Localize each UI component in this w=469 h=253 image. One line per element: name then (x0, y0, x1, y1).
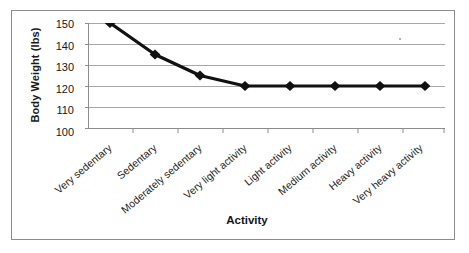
y-tick-label-130: 130 (44, 62, 74, 73)
x-tick-text-0: Very sedentary (53, 142, 113, 195)
gridlines (88, 24, 445, 108)
plot-area (77, 23, 445, 141)
x-tick-label-6: Heavy activity (262, 142, 384, 246)
x-tick-label-4: Light activity (172, 142, 294, 246)
y-tick-label-140: 140 (44, 41, 74, 52)
x-tick-text-3: Very light activity (182, 142, 249, 200)
y-tick-label-150: 150 (44, 19, 74, 30)
chart-canvas (77, 23, 445, 141)
chart-figure: Body Weight (lbs) 150 140 130 120 110 10… (11, 10, 455, 240)
x-tick-text-2: Moderately sedentary (119, 142, 203, 215)
x-tick-label-3: Very light activity (127, 142, 249, 246)
x-tick-label-7: Very heavy activity (303, 142, 425, 246)
x-tick-label-5: Medium activity (217, 142, 339, 246)
data-point-7 (420, 81, 431, 91)
y-tick-label-110: 110 (44, 105, 74, 116)
y-tick-label-120: 120 (44, 84, 74, 95)
scan-artifact-speck (399, 38, 401, 40)
y-tick-label-100: 100 (44, 127, 74, 138)
x-tick-text-4: Light activity (242, 142, 293, 187)
data-point-4 (285, 81, 296, 91)
data-point-5 (330, 81, 341, 91)
data-point-3 (240, 81, 251, 91)
x-tick-label-0: Very sedentary (0, 142, 113, 246)
y-axis-ticks (85, 24, 89, 129)
x-tick-text-1: Sedentary (115, 142, 158, 181)
y-axis-tick-labels: 150 140 130 120 110 100 (40, 23, 74, 141)
x-tick-label-1: Sedentary (37, 142, 159, 246)
data-markers (105, 23, 431, 91)
x-tick-label-2: Moderately sedentary (82, 142, 204, 246)
x-axis-ticks (133, 129, 444, 134)
x-tick-text-7: Very heavy activity (351, 142, 424, 206)
x-tick-text-5: Medium activity (276, 142, 338, 197)
x-tick-text-6: Heavy activity (327, 142, 383, 192)
x-axis-title: Activity (132, 214, 362, 226)
data-point-6 (375, 81, 386, 91)
